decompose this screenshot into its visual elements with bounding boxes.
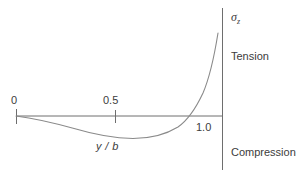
- xtick-label-0: 0: [11, 95, 17, 106]
- y-axis-title: σz: [231, 12, 240, 27]
- annotation-compression: Compression: [231, 147, 296, 158]
- stress-curve: [16, 33, 218, 139]
- xtick-label-1-0: 1.0: [196, 122, 211, 133]
- x-axis-title: y / b: [96, 141, 119, 152]
- sigma-subscript: z: [237, 17, 240, 26]
- annotation-tension: Tension: [231, 51, 269, 62]
- stress-distribution-figure: 0 0.5 1.0 y / b σz Tension Compression: [0, 0, 307, 175]
- xtick-label-0-5: 0.5: [103, 95, 118, 106]
